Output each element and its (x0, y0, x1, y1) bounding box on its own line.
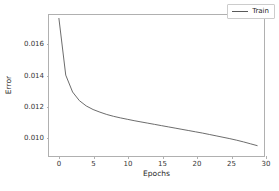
y-tick-label: 0.014 (24, 72, 49, 79)
x-tick-label: 10 (124, 156, 133, 168)
x-axis-label: Epochs (48, 170, 265, 178)
x-tick-label: 30 (262, 156, 271, 168)
line-chart-svg (49, 15, 264, 156)
train-error-line (59, 18, 257, 145)
plot-axes-area: 0.0100.0120.0140.016051015202530 (48, 14, 265, 157)
x-tick-label: 20 (193, 156, 202, 168)
y-tick-label: 0.012 (24, 103, 49, 110)
y-axis-label: Error (5, 76, 13, 94)
legend-label-train: Train (252, 8, 269, 15)
x-tick-label: 5 (91, 156, 95, 168)
chart-legend: Train (227, 4, 275, 19)
x-tick-label: 0 (57, 156, 61, 168)
y-tick-label: 0.016 (24, 41, 49, 48)
x-tick-label: 25 (227, 156, 236, 168)
x-tick-label: 15 (158, 156, 167, 168)
legend-line-swatch (232, 11, 248, 12)
figure-canvas: Error 0.0100.0120.0140.016051015202530 E… (0, 0, 279, 191)
y-tick-label: 0.010 (24, 135, 49, 142)
